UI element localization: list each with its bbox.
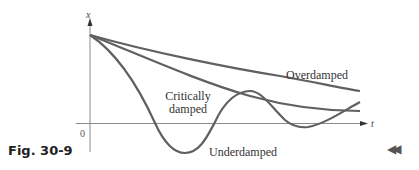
overdamped-label: Overdamped [286,69,348,82]
critically-damped-label-line2: damped [163,103,213,116]
origin-label: 0 [80,127,85,140]
t-axis-arrow-icon [360,121,368,126]
overdamped-curve [90,35,360,91]
y-axis-label: x [86,8,90,21]
critically-damped-label: Critically damped [163,90,213,116]
underdamped-label: Underdamped [209,146,277,159]
back-arrow-icon[interactable]: ◀◀ [387,142,397,156]
t-axis-label: t [371,117,374,130]
figure-caption: Fig. 30-9 [8,143,73,158]
